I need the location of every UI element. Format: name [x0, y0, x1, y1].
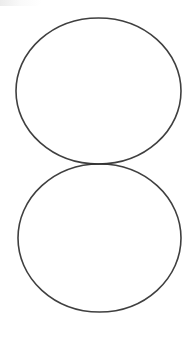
diagram-canvas	[0, 0, 194, 340]
bottom-ellipse	[18, 164, 181, 312]
top-ellipse	[16, 18, 181, 164]
figure-eight-diagram	[0, 0, 194, 340]
scan-smudge	[0, 0, 42, 6]
